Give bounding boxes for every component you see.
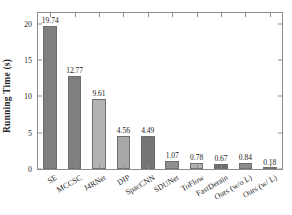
bar-value-label: 19.74 <box>42 16 59 25</box>
x-axis-tick-mark-top <box>245 13 246 17</box>
x-axis-tick-mark <box>245 165 246 169</box>
x-axis-tick-mark <box>99 165 100 169</box>
x-axis-tick-mark <box>75 165 76 169</box>
x-axis-tick-mark-top <box>148 13 149 17</box>
x-axis-tick-mark-top <box>99 13 100 17</box>
bar-value-label: 12.77 <box>66 66 83 75</box>
x-axis-tick-mark <box>270 165 271 169</box>
x-axis-tick-mark <box>123 165 124 169</box>
x-axis-tick-mark-top <box>197 13 198 17</box>
y-axis-tick-mark-right <box>278 23 282 24</box>
y-axis-tick-mark <box>38 169 42 170</box>
x-axis-tick-mark-top <box>50 13 51 17</box>
x-axis-tick-mark-top <box>123 13 124 17</box>
bar <box>43 26 57 169</box>
x-axis-tick-mark <box>50 165 51 169</box>
x-axis-tick-mark-top <box>221 13 222 17</box>
y-axis-tick-mark <box>38 132 42 133</box>
y-axis-tick-label: 20 <box>8 19 32 28</box>
bar-value-label: 1.07 <box>166 151 179 160</box>
x-axis-tick-mark-top <box>172 13 173 17</box>
y-axis-tick-mark-right <box>278 60 282 61</box>
y-axis-tick-mark <box>38 60 42 61</box>
plot-inner: 0510152019.7412.779.614.564.491.070.780.… <box>38 13 282 169</box>
y-axis-tick-mark <box>38 96 42 97</box>
y-axis-tick-mark-right <box>278 96 282 97</box>
chart-figure: Running Time (s) 0510152019.7412.779.614… <box>0 0 292 215</box>
x-axis-tick-mark <box>197 165 198 169</box>
x-axis-tick-mark-top <box>270 13 271 17</box>
bar-value-label: 0.84 <box>239 153 252 162</box>
y-axis-tick-label: 10 <box>8 92 32 101</box>
y-axis-tick-label: 15 <box>8 56 32 65</box>
bar-value-label: 0.67 <box>214 154 227 163</box>
x-axis-tick-mark <box>148 165 149 169</box>
x-axis-tick-mark <box>221 165 222 169</box>
bar-value-label: 4.49 <box>141 126 154 135</box>
y-axis-tick-mark-right <box>278 169 282 170</box>
plot-area: 0510152019.7412.779.614.564.491.070.780.… <box>37 12 283 170</box>
bar <box>92 99 106 169</box>
bar-value-label: 9.61 <box>92 89 105 98</box>
y-axis-tick-mark-right <box>278 132 282 133</box>
bar-value-label: 0.78 <box>190 153 203 162</box>
y-axis-tick-label: 5 <box>8 128 32 137</box>
bar-value-label: 4.56 <box>117 126 130 135</box>
y-axis-tick-label: 0 <box>8 165 32 174</box>
x-axis-tick-mark <box>172 165 173 169</box>
x-axis-tick-mark-top <box>75 13 76 17</box>
bar <box>68 76 82 169</box>
